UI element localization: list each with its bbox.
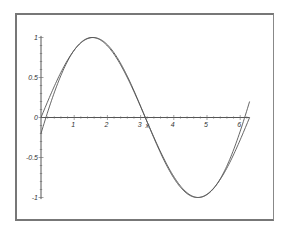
- x-tick-label: 5: [204, 121, 208, 128]
- y-tick-label: -0.5: [26, 154, 38, 161]
- axes: 123456x10.50-0.5-1: [26, 34, 250, 201]
- x-tick-label: 2: [103, 121, 108, 128]
- y-tick-label: -1: [32, 194, 38, 201]
- x-tick-label: 1: [71, 121, 75, 128]
- y-tick-label: 1: [34, 34, 38, 41]
- x-tick-label: 4: [171, 121, 175, 128]
- y-tick-label: 0.5: [28, 74, 38, 81]
- plot-canvas: 123456x10.50-0.5-1: [0, 0, 288, 233]
- y-tick-label: 0: [34, 114, 38, 121]
- x-tick-label: 3: [138, 121, 142, 128]
- x-tick-label: 6: [237, 121, 241, 128]
